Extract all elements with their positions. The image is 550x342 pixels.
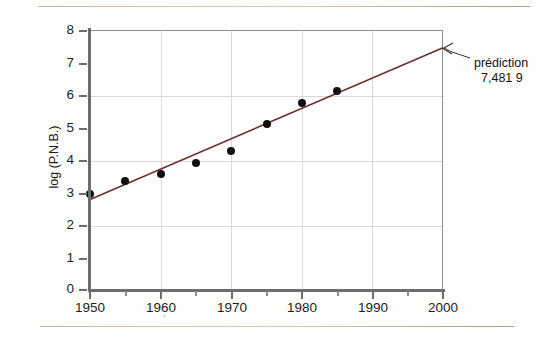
prediction-label-line1: prédiction — [474, 56, 528, 70]
prediction-arrow — [0, 0, 550, 342]
prediction-label: prédiction 7,481 9 — [474, 56, 528, 86]
prediction-label-line2: 7,481 9 — [474, 71, 528, 86]
chart-page: 8 7 6 5 4 3 2 1 0 log (P.N.B.) 1950 1960… — [0, 0, 550, 342]
